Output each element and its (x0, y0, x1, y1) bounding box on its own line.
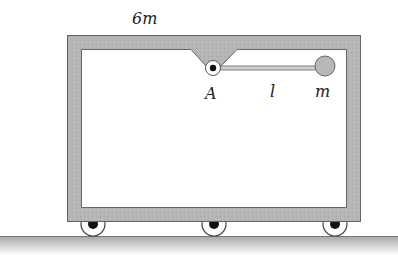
pendulum-rod (220, 66, 318, 70)
cart-mass-label: 6m (132, 9, 157, 28)
pendulum-bob (315, 56, 335, 76)
pivot-icon (206, 61, 221, 76)
pivot-label: A (203, 84, 217, 103)
rod-length-label: l (270, 82, 275, 101)
bob-mass-label: m (315, 82, 330, 101)
diagram-canvas: 6m A l m (0, 0, 398, 255)
ground (0, 236, 398, 255)
